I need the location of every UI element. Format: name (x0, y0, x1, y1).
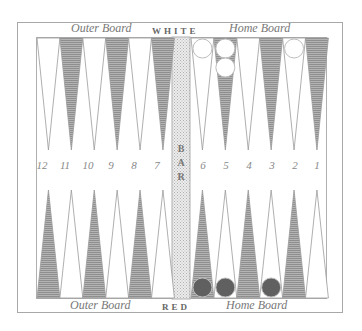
white-checker[interactable] (285, 39, 304, 58)
top-player-label-white: WHITE (152, 26, 199, 36)
point-number-11: 11 (55, 159, 75, 171)
point-number-1: 1 (307, 159, 327, 171)
bottom-right-home-board-label: Home Board (226, 298, 287, 313)
point-number-9: 9 (101, 159, 121, 171)
point-number-8: 8 (124, 159, 144, 171)
point-number-6: 6 (193, 159, 213, 171)
bar-letter-r: R (174, 170, 188, 184)
white-checker[interactable] (193, 39, 212, 58)
bottom-left-outer-board-label: Outer Board (70, 298, 131, 313)
point-number-7: 7 (147, 159, 167, 171)
white-checker[interactable] (216, 39, 235, 58)
bar-letter-b: B (174, 142, 188, 156)
point-number-5: 5 (216, 159, 236, 171)
bar-label: B A R (174, 142, 188, 184)
bar-letter-a: A (174, 156, 188, 170)
top-left-outer-board-label: Outer Board (71, 21, 132, 36)
red-checker[interactable] (193, 278, 212, 297)
point-number-3: 3 (262, 159, 282, 171)
point-number-2: 2 (285, 159, 305, 171)
point-number-10: 10 (78, 159, 98, 171)
red-checker[interactable] (216, 278, 235, 297)
bottom-player-label-red: RED (162, 302, 190, 312)
red-checker[interactable] (262, 278, 281, 297)
top-right-home-board-label: Home Board (229, 21, 290, 36)
white-checker[interactable] (216, 58, 235, 77)
point-number-4: 4 (239, 159, 259, 171)
point-number-12: 12 (32, 159, 52, 171)
